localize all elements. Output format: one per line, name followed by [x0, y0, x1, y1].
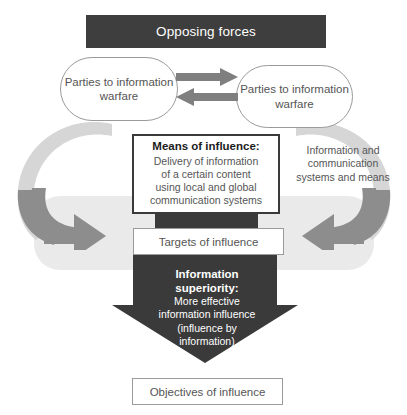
arrow-right-icon	[176, 68, 238, 88]
targets-of-influence-box: Targets of influence	[133, 228, 284, 255]
party-left-node: Parties to information warfare	[60, 57, 178, 121]
party-right-label: Parties to information warfare	[237, 82, 352, 111]
superiority-line-4: information)	[179, 335, 234, 348]
page-title-banner: Opposing forces	[86, 15, 326, 48]
party-right-node: Parties to information warfare	[236, 65, 353, 128]
means-line-4: communication systems	[150, 194, 262, 207]
side-caption-line-1: Information and	[296, 144, 389, 158]
side-caption-line-2: communication	[296, 157, 389, 171]
objectives-label: Objectives of influence	[150, 386, 266, 398]
means-line-1: Delivery of information	[154, 155, 258, 168]
means-of-influence-box: Means of influence: Delivery of informat…	[132, 134, 280, 214]
side-caption-line-3: systems and means	[296, 171, 389, 185]
superiority-heading-line-2: superiority:	[175, 282, 238, 296]
superiority-heading-line-1: Information	[175, 268, 238, 282]
means-heading: Means of influence:	[152, 140, 259, 153]
superiority-line-3: (influence by	[177, 322, 237, 335]
objectives-of-influence-box: Objectives of influence	[132, 378, 283, 405]
arrow-left-icon	[176, 88, 238, 108]
party-left-label: Parties to information warfare	[61, 75, 177, 104]
means-line-3: using local and global	[156, 181, 257, 194]
curved-loop-arrow-icon-left	[8, 118, 126, 250]
information-superiority-text: Information superiority: More effective …	[133, 259, 281, 357]
banner-label: Opposing forces	[156, 24, 256, 39]
means-line-2: of a certain content	[161, 168, 250, 181]
superiority-line-1: More effective	[174, 295, 240, 308]
targets-label: Targets of influence	[159, 236, 259, 248]
side-caption: Information and communication systems an…	[284, 140, 402, 188]
diagram-canvas: Opposing forces Parties to information w…	[0, 0, 407, 415]
superiority-line-2: information influence	[159, 308, 256, 321]
